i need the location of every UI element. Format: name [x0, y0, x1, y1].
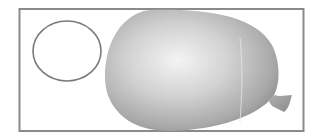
- balloon-knot: [268, 95, 292, 112]
- ellipse: [33, 21, 101, 81]
- illustration: [0, 0, 320, 137]
- balloon: [105, 10, 279, 131]
